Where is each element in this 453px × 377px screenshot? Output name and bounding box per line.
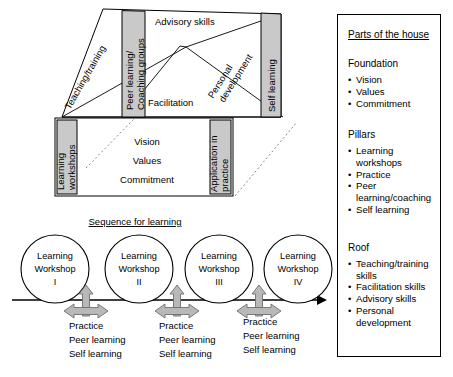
roof-label-facilitation: Facilitation (148, 97, 193, 108)
list-item: Learning workshops (348, 145, 432, 168)
figure-root: Peer learning/ Coaching groups Self lear… (0, 0, 453, 377)
panel-group-roof-heading: Roof (348, 241, 432, 254)
panel-group-foundation: Foundation Vision Values Commitment (348, 57, 432, 109)
interval-3-line1: Practice (243, 316, 277, 327)
foundation-pillar-right-line2: practice (219, 159, 230, 192)
roof-band-self-learning-label: Self learning (266, 59, 277, 112)
panel-group-foundation-heading: Foundation (348, 57, 432, 70)
list-item: Self learning (348, 204, 432, 215)
sequence-title: Sequence for learning (89, 216, 182, 227)
sequence-group: Sequence for learning Learning Workshop … (12, 216, 332, 359)
foundation-group: Learning workshops Application in practi… (55, 118, 233, 196)
list-item: Values (348, 86, 432, 97)
workshop-3-line3: III (215, 277, 223, 287)
roof-label-advisory-skills: Advisory skills (155, 16, 215, 27)
panel-group-foundation-list: Vision Values Commitment (348, 74, 432, 109)
roof-band-peer-learning-line2: Coaching groups (135, 38, 146, 110)
foundation-value-vision: Vision (134, 136, 160, 147)
workshop-node-4: Learning Workshop IV (264, 235, 332, 303)
interval-3-line3: Self learning (243, 344, 296, 355)
panel-title: Parts of the house (348, 29, 432, 41)
interval-1-line2: Peer learning (69, 334, 126, 345)
interval-1-line1: Practice (69, 320, 103, 331)
foundation-pillar-left-line1: Learning (55, 153, 66, 190)
foundation-value-commitment: Commitment (120, 174, 174, 185)
workshop-3-line2: Workshop (198, 264, 239, 274)
list-item: Practice (348, 169, 432, 180)
roof-band-peer-learning-line1: Peer learning/ (124, 50, 135, 110)
panel-group-roof-list: Teaching/training skills Facilitation sk… (348, 258, 432, 328)
workshop-node-1: Learning Workshop I (21, 235, 89, 303)
foundation-value-values: Values (133, 155, 162, 166)
interval-3-line2: Peer learning (243, 330, 300, 341)
parts-of-the-house-panel: Parts of the house Foundation Vision Val… (337, 14, 441, 357)
workshop-1-line3: I (54, 277, 57, 287)
workshop-node-2: Learning Workshop II (105, 235, 173, 303)
list-item: Teaching/training skills (348, 258, 432, 281)
interval-label-1: Practice Peer learning Self learning (69, 320, 126, 359)
interval-label-2: Practice Peer learning Self learning (159, 320, 216, 359)
list-item: Personal development (348, 305, 432, 328)
list-item: Vision (348, 74, 432, 85)
list-item: Advisory skills (348, 293, 432, 304)
interval-1-line3: Self learning (69, 348, 122, 359)
workshop-2-line2: Workshop (118, 264, 159, 274)
workshop-4-line2: Workshop (277, 264, 318, 274)
workshop-4-line1: Learning (280, 251, 316, 261)
workshop-1-line1: Learning (37, 251, 73, 261)
interval-2-line2: Peer learning (159, 334, 216, 345)
workshop-2-line3: II (136, 277, 141, 287)
panel-group-pillars: Pillars Learning workshops Practice Peer… (348, 128, 432, 215)
workshop-2-line1: Learning (121, 251, 157, 261)
roof-group: Peer learning/ Coaching groups Self lear… (62, 9, 283, 117)
interval-2-line3: Self learning (159, 348, 212, 359)
workshop-4-line3: IV (294, 277, 304, 287)
foundation-pillar-left-line2: workshops (66, 144, 77, 191)
panel-group-roof: Roof Teaching/training skills Facilitati… (348, 241, 432, 328)
list-item: Facilitation skills (348, 281, 432, 292)
list-item: Peer learning/coaching (348, 180, 432, 203)
workshop-node-3: Learning Workshop III (185, 235, 253, 303)
interval-label-3: Practice Peer learning Self learning (243, 316, 300, 355)
panel-group-pillars-list: Learning workshops Practice Peer learnin… (348, 145, 432, 215)
workshop-3-line1: Learning (201, 251, 237, 261)
interval-2-line1: Practice (159, 320, 193, 331)
list-item: Commitment (348, 98, 432, 109)
panel-group-pillars-heading: Pillars (348, 128, 432, 141)
projection-guide-right (235, 122, 297, 196)
foundation-pillar-right-line1: Application in (208, 135, 219, 192)
workshop-1-line2: Workshop (34, 264, 75, 274)
